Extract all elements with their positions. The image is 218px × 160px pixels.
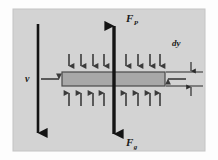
force-pressure-symbol: F [125, 12, 134, 24]
force-gravity-symbol: F [125, 136, 134, 148]
thickness-label: dy [172, 38, 182, 48]
velocity-label: v [25, 73, 30, 84]
force-gravity-subscript: g [133, 143, 138, 151]
force-pressure-subscript: P [134, 19, 139, 27]
figure-root: FP Fg v dy [0, 0, 218, 160]
diagram-canvas: FP Fg v dy [0, 0, 218, 160]
